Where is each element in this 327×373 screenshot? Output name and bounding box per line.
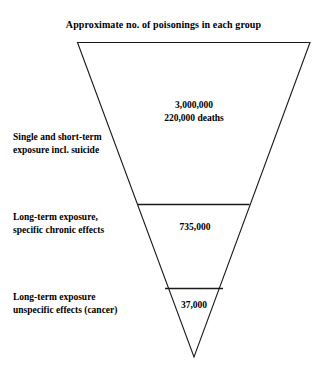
poisoning-funnel-figure: Approximate no. of poisonings in each gr… bbox=[0, 0, 327, 373]
segment-value-short-term-exposure: 3,000,000 220,000 deaths bbox=[138, 99, 250, 125]
segment-value-cancer-effects: 37,000 bbox=[156, 299, 232, 312]
funnel-diagram bbox=[0, 0, 327, 373]
segment-label-chronic-effects: Long-term exposure, specific chronic eff… bbox=[13, 211, 104, 237]
segment-value-chronic-effects: 735,000 bbox=[150, 221, 240, 234]
segment-label-cancer-effects: Long-term exposure unspecific effects (c… bbox=[13, 291, 117, 317]
segment-label-short-term-exposure: Single and short-term exposure incl. sui… bbox=[13, 131, 102, 157]
